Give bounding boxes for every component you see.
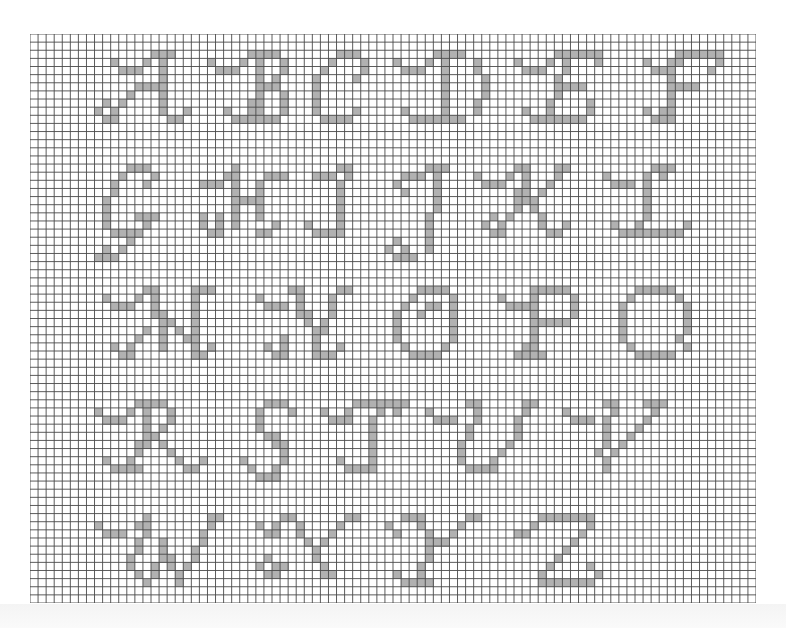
stitch-cell: [466, 432, 475, 441]
stitch-cell: [474, 416, 483, 425]
stitch-cell: [135, 67, 144, 76]
stitch-cell: [361, 67, 370, 76]
stitch-cell: [587, 416, 596, 425]
stitch-cell: [425, 58, 434, 67]
stitch-cell: [159, 424, 168, 433]
stitch-cell: [143, 221, 152, 230]
stitch-cell: [441, 538, 450, 547]
stitch-cell: [579, 83, 588, 92]
stitch-cell: [562, 546, 571, 555]
stitch-cell: [562, 319, 571, 328]
stitch-cell: [175, 115, 184, 124]
stitch-cell: [337, 522, 346, 531]
stitch-cell: [651, 408, 660, 417]
stitch-cell: [579, 115, 588, 124]
letter-cells-layer: [30, 34, 756, 603]
stitch-cell: [191, 554, 200, 563]
stitch-cell: [232, 221, 241, 230]
stitch-cell: [167, 50, 176, 59]
stitch-cell: [127, 302, 136, 311]
stitch-cell: [216, 180, 225, 189]
stitch-cell: [691, 83, 700, 92]
stitch-cell: [175, 579, 184, 588]
stitch-cell: [401, 188, 410, 197]
stitch-cell: [119, 172, 128, 181]
stitch-cell: [119, 530, 128, 539]
stitch-cell: [345, 172, 354, 181]
stitch-cell: [328, 58, 337, 67]
stitch-cell: [562, 164, 571, 173]
stitch-cell: [328, 570, 337, 579]
stitch-cell: [522, 530, 531, 539]
cross-stitch-grid: [30, 34, 756, 603]
stitch-cell: [207, 343, 216, 352]
stitch-cell: [280, 457, 289, 466]
stitch-cell: [393, 530, 402, 539]
stitch-cell: [353, 107, 362, 116]
stitch-cell: [627, 294, 636, 303]
stitch-cell: [256, 213, 265, 222]
stitch-cell: [151, 570, 160, 579]
stitch-cell: [288, 408, 297, 417]
stitch-cell: [482, 91, 491, 100]
stitch-cell: [627, 432, 636, 441]
stitch-cell: [272, 570, 281, 579]
stitch-cell: [216, 229, 225, 238]
stitch-cell: [135, 229, 144, 238]
stitch-cell: [183, 562, 192, 571]
stitch-cell: [320, 67, 329, 76]
stitch-cell: [345, 115, 354, 124]
stitch-cell: [554, 91, 563, 100]
stitch-cell: [659, 400, 668, 409]
stitch-cell: [538, 351, 547, 360]
stitch-cell: [369, 465, 378, 474]
stitch-cell: [474, 107, 483, 116]
stitch-cell: [143, 530, 152, 539]
stitch-cell: [143, 579, 152, 588]
stitch-cell: [619, 440, 628, 449]
stitch-cell: [683, 343, 692, 352]
stitch-cell: [337, 229, 346, 238]
stitch-cell: [562, 221, 571, 230]
stitch-cell: [643, 213, 652, 222]
stitch-cell: [627, 180, 636, 189]
stitch-cell: [409, 253, 418, 262]
stitch-cell: [328, 351, 337, 360]
stitch-cell: [272, 473, 281, 482]
stitch-cell: [506, 213, 515, 222]
stitch-cell: [554, 554, 563, 563]
stitch-cell: [328, 310, 337, 319]
stitch-cell: [159, 343, 168, 352]
stitch-cell: [280, 172, 289, 181]
stitch-cell: [708, 67, 717, 76]
stitch-cell: [127, 237, 136, 246]
stitch-cell: [425, 245, 434, 254]
stitch-cell: [272, 221, 281, 230]
stitch-cell: [401, 400, 410, 409]
stitch-cell: [135, 546, 144, 555]
stitch-cell: [587, 579, 596, 588]
stitch-cell: [417, 310, 426, 319]
stitch-cell: [280, 302, 289, 311]
stitch-cell: [127, 351, 136, 360]
stitch-cell: [458, 115, 467, 124]
stitch-cell: [401, 302, 410, 311]
stitch-cell: [449, 530, 458, 539]
stitch-cell: [474, 514, 483, 523]
stitch-cell: [409, 294, 418, 303]
stitch-cell: [272, 530, 281, 539]
stitch-cell: [490, 465, 499, 474]
stitch-cell: [498, 229, 507, 238]
stitch-cell: [199, 457, 208, 466]
stitch-cell: [675, 58, 684, 67]
stitch-cell: [127, 91, 136, 100]
stitch-cell: [667, 351, 676, 360]
stitch-cell: [240, 58, 249, 67]
stitch-cell: [425, 554, 434, 563]
stitch-cell: [337, 343, 346, 352]
stitch-cell: [280, 67, 289, 76]
stitch-cell: [530, 522, 539, 531]
stitch-cell: [127, 408, 136, 417]
stitch-cell: [393, 408, 402, 417]
stitch-cell: [546, 562, 555, 571]
